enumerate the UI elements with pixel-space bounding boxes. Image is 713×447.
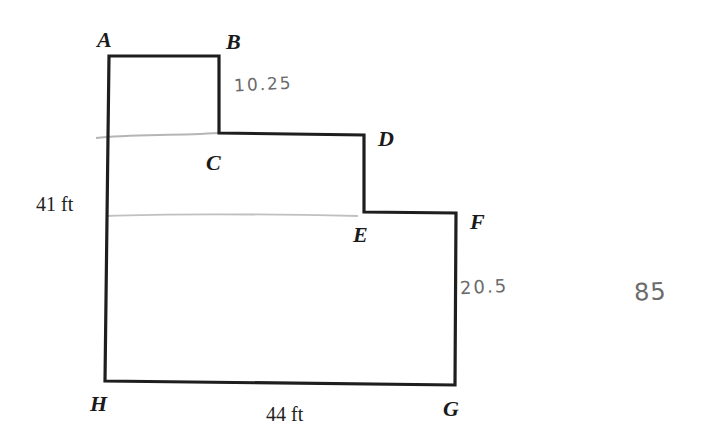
handwritten-bc-length: 10.25 [234,74,293,94]
vertex-label-g: G [443,398,459,420]
vertex-label-h: H [90,393,107,415]
dimension-bottom: 44 ft [266,404,303,424]
vertex-label-d: D [378,128,394,150]
vertex-label-a: A [97,29,112,51]
vertex-label-f: F [470,211,485,233]
vertex-label-e: E [353,224,368,246]
floor-plan-outline [105,56,456,385]
vertex-label-b: B [226,31,241,53]
pencil-line-e [106,214,358,216]
diagram-canvas: A B C D E F G H 41 ft 44 ft 10.25 20.5 8… [0,0,713,447]
pencil-line-c [96,133,219,138]
vertex-label-c: C [206,152,221,174]
dimension-left: 41 ft [36,194,73,214]
handwritten-total: 85 [633,279,667,305]
handwritten-fg-length: 20.5 [460,277,509,297]
